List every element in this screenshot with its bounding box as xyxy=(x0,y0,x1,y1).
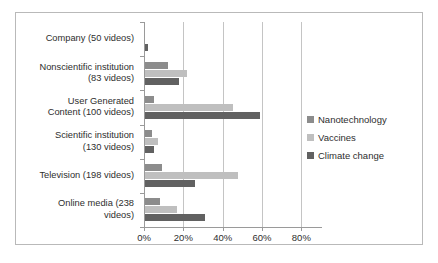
x-tick-label: 40% xyxy=(203,232,243,243)
x-tick-mark xyxy=(301,227,302,231)
category-label-line: (83 videos) xyxy=(18,73,134,85)
x-tick-label: 20% xyxy=(163,232,203,243)
bar-climate-change xyxy=(144,180,195,187)
category-label-line: User Generated xyxy=(18,96,134,108)
x-tick-mark xyxy=(223,227,224,231)
legend-label: Vaccines xyxy=(318,132,356,143)
category-label-line: Nonscientific institution xyxy=(18,62,134,74)
x-axis-tick-labels: 0%20%40%60%80% xyxy=(16,232,424,248)
y-tick-mark xyxy=(140,193,144,194)
legend-item-vaccines[interactable]: Vaccines xyxy=(307,128,417,146)
x-tick-mark xyxy=(262,227,263,231)
legend-swatch-icon xyxy=(307,116,314,123)
x-tick-label: 60% xyxy=(242,232,282,243)
category-label: Nonscientific institution(83 videos) xyxy=(18,62,134,85)
category-label: Scientific institution(130 videos) xyxy=(18,130,134,153)
plot-area xyxy=(144,22,321,227)
category-label: Company (50 videos) xyxy=(18,33,134,45)
bar-climate-change xyxy=(144,78,179,85)
category-label-line: Television (198 videos) xyxy=(18,170,134,182)
bar-group xyxy=(144,56,321,90)
y-axis-line xyxy=(144,22,145,228)
bar-nanotechnology xyxy=(144,164,162,171)
y-tick-mark xyxy=(140,90,144,91)
category-label-line: Content (100 videos) xyxy=(18,107,134,119)
bar-climate-change xyxy=(144,146,154,153)
y-tick-mark xyxy=(140,125,144,126)
legend-swatch-icon xyxy=(307,134,314,141)
legend-item-nanotechnology[interactable]: Nanotechnology xyxy=(307,110,417,128)
legend-label: Nanotechnology xyxy=(318,114,387,125)
x-axis-line xyxy=(144,227,322,228)
x-tick-mark xyxy=(183,227,184,231)
bar-group xyxy=(144,22,321,56)
bar-nanotechnology xyxy=(144,130,152,137)
x-tick-label: 80% xyxy=(281,232,321,243)
chart-frame: Company (50 videos)Nonscientific institu… xyxy=(15,12,423,245)
category-axis-labels: Company (50 videos)Nonscientific institu… xyxy=(18,22,140,227)
x-tick-label: 0% xyxy=(124,232,164,243)
x-tick-mark xyxy=(144,227,145,231)
bar-group xyxy=(144,125,321,159)
chart-legend: NanotechnologyVaccinesClimate change xyxy=(307,110,417,164)
y-tick-mark xyxy=(140,227,144,228)
category-label-line: Online media (238 xyxy=(18,198,134,210)
bar-group xyxy=(144,90,321,124)
bar-vaccines xyxy=(144,104,233,111)
y-tick-mark xyxy=(140,159,144,160)
category-label: Television (198 videos) xyxy=(18,170,134,182)
category-label: Online media (238videos) xyxy=(18,198,134,221)
category-label-line: Company (50 videos) xyxy=(18,33,134,45)
category-label: User GeneratedContent (100 videos) xyxy=(18,96,134,119)
category-label-line: Scientific institution xyxy=(18,130,134,142)
bar-vaccines xyxy=(144,172,238,179)
y-tick-mark xyxy=(140,22,144,23)
bar-nanotechnology xyxy=(144,62,168,69)
bar-vaccines xyxy=(144,70,187,77)
bar-nanotechnology xyxy=(144,96,154,103)
bar-vaccines xyxy=(144,206,177,213)
y-tick-mark xyxy=(140,56,144,57)
bar-climate-change xyxy=(144,214,205,221)
bar-group xyxy=(144,159,321,193)
bar-vaccines xyxy=(144,138,158,145)
category-label-line: videos) xyxy=(18,210,134,222)
legend-swatch-icon xyxy=(307,152,314,159)
legend-item-climate-change[interactable]: Climate change xyxy=(307,146,417,164)
bar-nanotechnology xyxy=(144,198,160,205)
bar-climate-change xyxy=(144,112,260,119)
bar-group xyxy=(144,193,321,227)
category-label-line: (130 videos) xyxy=(18,142,134,154)
legend-label: Climate change xyxy=(318,150,384,161)
